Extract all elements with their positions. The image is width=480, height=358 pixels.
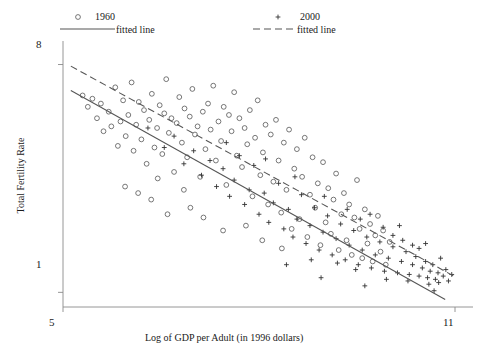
data-points: [80, 77, 454, 293]
legend-label-2000-fitted: fitted line: [297, 24, 336, 35]
legend-label-2000: 2000: [300, 11, 320, 22]
x-axis-title: Log of GDP per Adult (in 1996 dollars): [145, 332, 303, 343]
axes: [58, 41, 473, 312]
y-axis-title: Total Fertility Rate: [15, 111, 26, 241]
chart-canvas: [0, 0, 480, 358]
x-tick-label-right: 11: [443, 316, 454, 328]
x-tick-label-left: 5: [49, 316, 55, 328]
legend-label-1960: 1960: [95, 11, 115, 22]
chart-figure: 8 1 5 11 Log of GDP per Adult (in 1996 d…: [0, 0, 480, 358]
fitted-lines: [71, 66, 455, 299]
y-tick-label-bottom: 1: [36, 258, 42, 270]
legend-label-1960-fitted: fitted line: [116, 24, 155, 35]
y-tick-label-top: 8: [36, 38, 42, 50]
